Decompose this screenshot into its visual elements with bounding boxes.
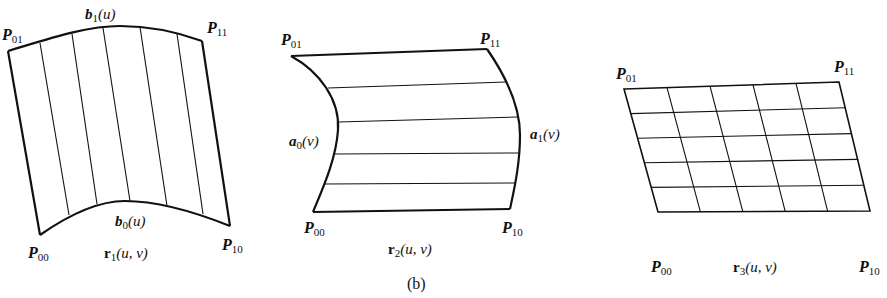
rulings-r2 xyxy=(324,82,520,184)
label-p11: P11 xyxy=(833,58,854,77)
grid-boundary xyxy=(624,82,870,212)
grid-line-h xyxy=(651,185,864,187)
grid-line-v xyxy=(796,83,828,211)
ruling xyxy=(72,34,97,204)
ruling xyxy=(177,34,203,214)
edge-left-p00-p01 xyxy=(8,51,40,235)
label-p00: P00 xyxy=(650,258,672,277)
panel-r1: P01 P11 P00 P10 b1(u) b0(u) r1(u, v) xyxy=(1,6,243,263)
label-r2: r2(u, v) xyxy=(388,241,432,259)
ruling xyxy=(40,43,69,215)
figure-canvas: P01 P11 P00 P10 b1(u) b0(u) r1(u, v) P01… xyxy=(0,0,887,298)
label-p00: P00 xyxy=(27,244,49,263)
label-p11: P11 xyxy=(479,30,500,49)
label-r1: r1(u, v) xyxy=(104,245,148,263)
edge-bottom-p00-p10 xyxy=(313,209,510,212)
label-p10: P10 xyxy=(501,219,523,238)
grid-line-h xyxy=(638,134,852,139)
ruling xyxy=(324,183,516,184)
ruling xyxy=(328,82,506,88)
label-a0: a0(v) xyxy=(289,133,319,151)
grid-line-v xyxy=(667,88,700,212)
ruling xyxy=(140,27,167,206)
ruling xyxy=(338,117,519,122)
grid-lines-r3 xyxy=(631,83,864,211)
label-b1: b1(u) xyxy=(85,6,116,24)
ruling xyxy=(334,153,520,154)
ruling xyxy=(103,28,130,201)
grid-line-h xyxy=(631,108,845,114)
label-b0: b0(u) xyxy=(115,213,146,231)
label-p01: P01 xyxy=(280,31,302,50)
label-p10: P10 xyxy=(858,258,880,277)
label-p01: P01 xyxy=(615,65,637,84)
label-p01: P01 xyxy=(1,26,23,45)
edge-top-p01-p11 xyxy=(291,49,487,56)
panel-r3: P01 P11 P00 P10 r3(u, v) xyxy=(615,58,880,277)
label-p10: P10 xyxy=(221,236,243,255)
grid-line-v xyxy=(753,85,785,212)
panel-r2: P01 P11 P00 P10 a0(v) a1(v) r2(u, v) (b) xyxy=(280,30,560,293)
grid-line-h xyxy=(644,159,857,162)
label-p00: P00 xyxy=(303,219,325,238)
curve-a1 xyxy=(487,49,520,209)
rulings-r1 xyxy=(40,27,203,215)
figure-caption: (b) xyxy=(407,275,426,293)
label-a1: a1(v) xyxy=(530,126,560,144)
edge-right-p11-p10 xyxy=(202,41,230,226)
label-p11: P11 xyxy=(206,19,227,38)
label-r3: r3(u, v) xyxy=(733,259,777,277)
grid-line-v xyxy=(710,86,743,211)
